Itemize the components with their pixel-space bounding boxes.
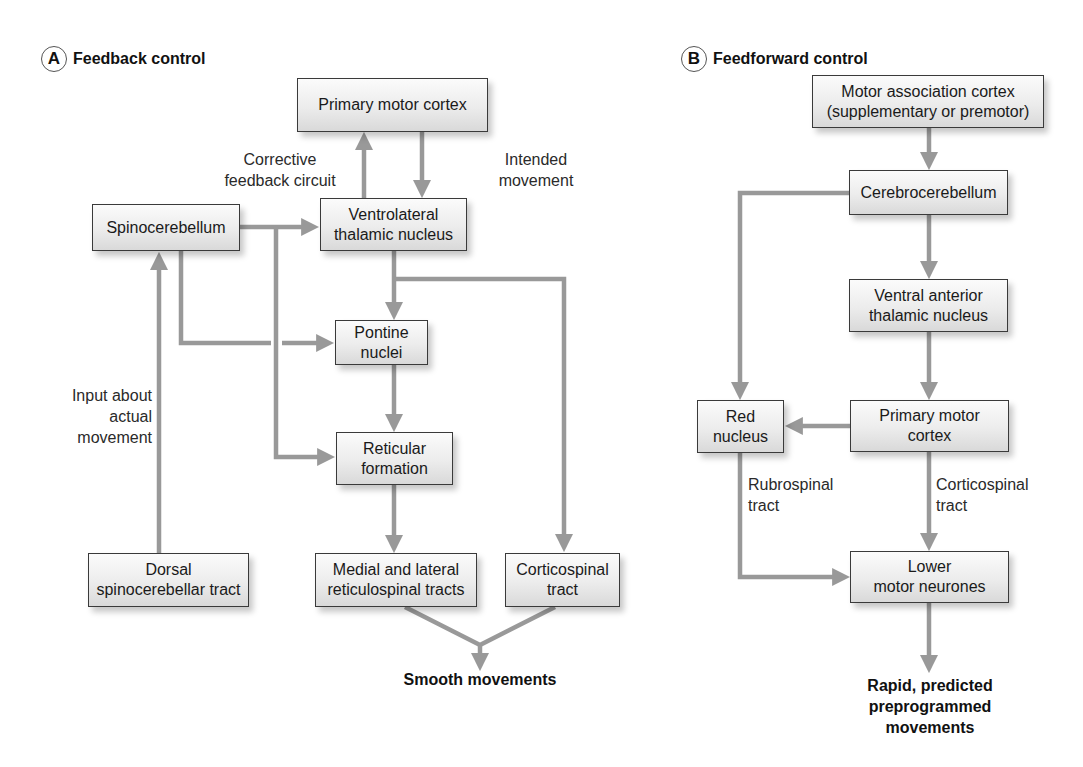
output-smooth-movements: Smooth movements bbox=[404, 669, 557, 690]
box-red-nucleus: Red nucleus bbox=[697, 400, 784, 453]
box-ventral-anterior-thalamic-nucleus: Ventral anterior thalamic nucleus bbox=[849, 279, 1008, 332]
box-ventrolateral-thalamic-nucleus: Ventrolateral thalamic nucleus bbox=[320, 198, 467, 251]
label-corticospinal-tract-b: Corticospinal tract bbox=[936, 474, 1028, 516]
box-dorsal-spinocerebellar-tract: Dorsal spinocerebellar tract bbox=[88, 553, 249, 607]
box-primary-motor-cortex-a: Primary motor cortex bbox=[297, 78, 488, 132]
box-reticulospinal-tracts: Medial and lateral reticulospinal tracts bbox=[315, 553, 477, 607]
motor-control-diagram: A Feedback control Primary motor cortex … bbox=[0, 0, 1083, 767]
box-spinocerebellum: Spinocerebellum bbox=[92, 204, 240, 251]
connector-merge-smooth bbox=[405, 607, 555, 645]
label-intended-movement: Intended movement bbox=[496, 149, 576, 191]
label-corrective-feedback: Corrective feedback circuit bbox=[215, 149, 345, 191]
box-pontine-nuclei: Pontine nuclei bbox=[335, 320, 428, 365]
box-motor-association-cortex: Motor association cortex (supplementary … bbox=[812, 75, 1044, 128]
box-cerebrocerebellum: Cerebrocerebellum bbox=[849, 170, 1008, 215]
box-lower-motor-neurones: Lower motor neurones bbox=[850, 551, 1009, 603]
box-corticospinal-tract-a: Corticospinal tract bbox=[505, 553, 620, 607]
label-input-actual-movement: Input about actual movement bbox=[40, 385, 152, 448]
panel-a-badge: A bbox=[41, 46, 67, 72]
panel-b-title: B Feedforward control bbox=[681, 46, 868, 72]
arrow-spino-to-pontine bbox=[181, 251, 271, 343]
panel-b-badge: B bbox=[681, 46, 707, 72]
output-rapid-movements: Rapid, predicted preprogrammed movements bbox=[867, 675, 992, 738]
panel-a-title-text: Feedback control bbox=[73, 50, 205, 68]
panel-a-title: A Feedback control bbox=[41, 46, 205, 72]
box-primary-motor-cortex-b: Primary motor cortex bbox=[850, 400, 1009, 452]
box-reticular-formation: Reticular formation bbox=[336, 432, 453, 485]
label-rubrospinal-tract: Rubrospinal tract bbox=[748, 474, 833, 516]
panel-b-title-text: Feedforward control bbox=[713, 50, 868, 68]
arrow-cerebro-to-red bbox=[740, 193, 849, 392]
arrow-vl-to-corticospinal bbox=[394, 279, 564, 544]
